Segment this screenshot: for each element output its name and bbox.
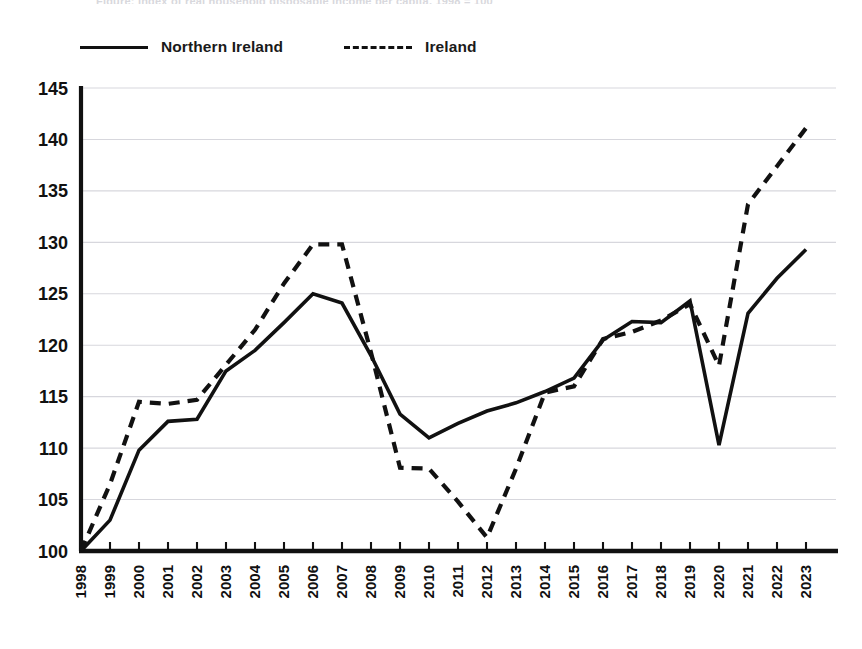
x-axis-tick-label: 2023 xyxy=(797,565,814,598)
x-axis-tick-label: 2017 xyxy=(623,565,640,598)
y-axis-tick-label: 100 xyxy=(38,542,68,562)
x-axis-tick-label: 2016 xyxy=(594,565,611,598)
x-axis-tick-labels: 1998199920002001200220032004200520062007… xyxy=(72,564,814,598)
x-axis-tick-label: 2004 xyxy=(246,564,263,598)
y-axis-tick-label: 120 xyxy=(38,336,68,356)
x-axis-tick-label: 2020 xyxy=(710,565,727,598)
x-axis-tick-label: 2014 xyxy=(536,564,553,598)
x-axis-tick-label: 2010 xyxy=(420,565,437,598)
y-axis-tick-label: 105 xyxy=(38,490,68,510)
x-axis-tick-label: 1998 xyxy=(72,565,89,598)
y-axis-tick-labels: 100105110115120125130135140145 xyxy=(38,79,68,562)
x-axis-tick-label: 2015 xyxy=(565,565,582,598)
chart-root: Figure: index of real household disposab… xyxy=(0,0,862,649)
x-axis-tick-label: 2002 xyxy=(188,565,205,598)
line-chart-svg: 100105110115120125130135140145 199819992… xyxy=(0,0,862,649)
data-series-group xyxy=(81,128,806,551)
x-axis-tick-label: 1999 xyxy=(101,565,118,598)
x-axis-tick-label: 2008 xyxy=(362,565,379,598)
y-axis-tick-label: 135 xyxy=(38,181,68,201)
x-axis-tick-label: 2022 xyxy=(768,565,785,598)
x-axis-tick-label: 2021 xyxy=(739,565,756,598)
x-axis-tick-label: 2000 xyxy=(130,565,147,598)
gridlines xyxy=(81,88,836,551)
x-axis-tick-label: 2001 xyxy=(159,565,176,598)
x-axis-tick-label: 2011 xyxy=(449,565,466,598)
x-axis-tick-label: 2006 xyxy=(304,565,321,598)
x-axis-tick-label: 2007 xyxy=(333,565,350,598)
x-axis-tick-label: 2009 xyxy=(391,565,408,598)
y-axis-tick-label: 140 xyxy=(38,130,68,150)
x-axis-tick-label: 2003 xyxy=(217,565,234,598)
y-axis-tick-label: 115 xyxy=(39,387,68,407)
y-axis-tick-label: 125 xyxy=(38,284,68,304)
x-axis-tick-label: 2019 xyxy=(681,565,698,598)
y-axis-tick-label: 145 xyxy=(38,79,68,99)
x-axis-tick-label: 2005 xyxy=(275,565,292,598)
plot-area: 100105110115120125130135140145 199819992… xyxy=(0,0,862,649)
x-axis-tick-label: 2018 xyxy=(652,565,669,598)
y-axis-tick-label: 130 xyxy=(38,233,68,253)
x-axis-tick-label: 2012 xyxy=(478,565,495,598)
x-axis-tick-label: 2013 xyxy=(507,565,524,598)
y-axis-tick-label: 110 xyxy=(39,439,68,459)
